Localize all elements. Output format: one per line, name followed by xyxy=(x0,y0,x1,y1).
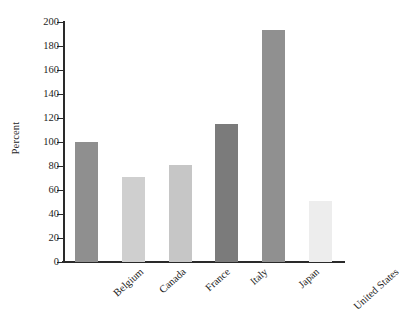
y-axis-tick-label: 160 xyxy=(43,65,59,76)
bar-italy[interactable] xyxy=(215,124,238,262)
bar-japan[interactable] xyxy=(262,30,285,262)
bars-layer xyxy=(63,22,344,262)
y-axis-tick-label: 120 xyxy=(43,113,59,124)
y-axis-tick-label: 180 xyxy=(43,41,59,52)
y-axis-tick-label: 20 xyxy=(49,233,60,244)
x-axis-label-france: France xyxy=(203,266,232,294)
plot-area: 020406080100120140160180200 xyxy=(63,22,344,262)
y-axis-tick-label: 140 xyxy=(43,89,59,100)
x-axis-category-labels: BelgiumCanadaFranceItalyJapanUnited Stat… xyxy=(63,263,344,325)
x-axis-label-canada: Canada xyxy=(157,266,188,296)
x-axis-label-united-states: United States xyxy=(351,266,401,313)
bar-canada[interactable] xyxy=(122,177,145,262)
bar-belgium[interactable] xyxy=(75,142,98,262)
y-axis-tick-label: 0 xyxy=(54,257,59,268)
x-axis-label-japan: Japan xyxy=(296,266,322,291)
y-axis-tick-label: 60 xyxy=(49,185,60,196)
y-axis-tick-label: 100 xyxy=(43,137,59,148)
y-axis-tick-label: 40 xyxy=(49,209,60,220)
bar-united-states[interactable] xyxy=(309,201,332,262)
x-axis-label-italy: Italy xyxy=(248,266,270,288)
y-axis-tick-label: 200 xyxy=(43,17,59,28)
bar-france[interactable] xyxy=(169,165,192,262)
y-axis-tick-label: 80 xyxy=(49,161,60,172)
y-axis-title: Percent xyxy=(9,106,23,170)
x-axis-label-belgium: Belgium xyxy=(112,266,147,299)
